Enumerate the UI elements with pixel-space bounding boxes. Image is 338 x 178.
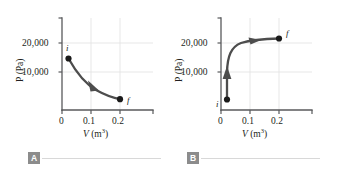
y-tick-label-20000-a: 20,000 <box>22 39 49 49</box>
x-tick-label-0-a: 0 <box>59 117 64 127</box>
direction-arrow-a <box>88 81 99 92</box>
point-i-marker-a <box>65 55 71 61</box>
axes-b <box>221 18 312 110</box>
x-tick-label-0p1-b: 0.1 <box>242 117 254 127</box>
physics-pv-diagram-figure: 20,000 10,000 0 0.1 0.2 V (m3) P (Pa) i … <box>0 0 338 178</box>
y-axis-title-b: P (Pa) <box>175 59 185 83</box>
x-tick-label-0p1-a: 0.1 <box>83 117 95 127</box>
point-label-i-a: i <box>66 44 69 53</box>
x-axis-title-a: V (m3) <box>83 130 108 140</box>
point-label-i-b: i <box>216 100 219 109</box>
y-axis-title-space-b <box>174 74 184 76</box>
point-label-f-a: f <box>127 96 130 105</box>
y-axis-title-var-b: P <box>174 77 184 82</box>
x-axis-title-unit-open-a: (m <box>91 129 102 139</box>
process-curve-a <box>69 59 121 100</box>
y-axis-title-unit-a: (Pa) <box>15 59 25 75</box>
y-axis-title-space-a <box>15 74 25 76</box>
panel-b-badge-row: B <box>187 152 320 166</box>
panel-a-badge-row: A <box>28 152 161 166</box>
panel-a-badge: A <box>28 152 40 164</box>
x-axis-title-unit-close-a: ) <box>105 129 108 139</box>
y-tick-label-20000-b: 20,000 <box>181 39 208 49</box>
panel-a-rule <box>42 158 161 160</box>
point-i-marker-b <box>224 96 230 102</box>
y-axis-title-var-a: P <box>15 77 25 82</box>
ticks-b <box>218 18 313 114</box>
y-tick-label-10000-b: 10,000 <box>181 68 208 78</box>
panel-b-badge: B <box>187 152 199 164</box>
process-curve-b <box>227 39 279 100</box>
x-tick-label-0-b: 0 <box>218 117 223 127</box>
x-axis-title-unit-close-b: ) <box>264 129 267 139</box>
panel-b-rule <box>201 158 320 160</box>
x-tick-label-0p2-b: 0.2 <box>271 117 283 127</box>
point-f-marker-a <box>117 96 123 102</box>
gridlines-b <box>221 18 312 110</box>
point-f-marker-b <box>276 35 282 41</box>
x-axis-title-b: V (m3) <box>242 130 267 140</box>
panel-b: 20,000 10,000 0 0.1 0.2 V (m3) P (Pa) i … <box>169 0 338 178</box>
panel-a: 20,000 10,000 0 0.1 0.2 V (m3) P (Pa) i … <box>0 0 169 178</box>
point-label-f-b: f <box>286 29 289 38</box>
y-axis-title-unit-b: (Pa) <box>174 59 184 75</box>
y-tick-label-10000-a: 10,000 <box>22 68 49 78</box>
direction-arrow-b-vertical <box>223 66 232 79</box>
x-axis-title-unit-open-b: (m <box>250 129 261 139</box>
y-axis-title-a: P (Pa) <box>16 59 26 83</box>
x-tick-label-0p2-a: 0.2 <box>112 117 124 127</box>
